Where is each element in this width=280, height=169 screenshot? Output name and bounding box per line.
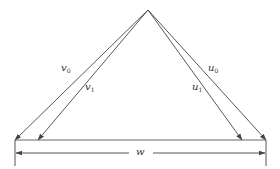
label-w-symbol: w <box>136 146 145 157</box>
label-u1: u1 <box>192 82 202 93</box>
label-v0-subscript: 0 <box>67 67 71 74</box>
vector-v1 <box>38 10 148 140</box>
vector-v0 <box>15 10 148 140</box>
label-u0: u0 <box>208 63 218 74</box>
label-u0-subscript: 0 <box>214 67 218 74</box>
label-u1-subscript: 1 <box>198 86 202 93</box>
vector-diagram <box>0 0 280 169</box>
label-v0: v0 <box>61 63 70 74</box>
label-v1: v1 <box>85 82 94 93</box>
label-v1-subscript: 1 <box>91 86 95 93</box>
vector-u0 <box>148 10 266 140</box>
label-w: w <box>136 147 145 157</box>
vector-u1 <box>148 10 242 140</box>
